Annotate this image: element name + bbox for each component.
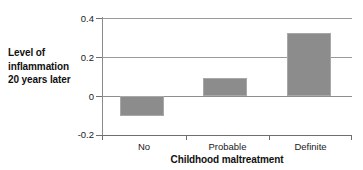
bar-chart-figure: Level of inflammation 20 years later 0.4… [0,0,363,170]
x-tick-mark-1 [186,135,187,140]
x-tick-mark-2 [269,135,270,140]
x-axis-title: Childhood maltreatment [102,154,352,165]
gridline-0.4 [102,18,352,19]
y-axis-tick-labels: 0.4 0.2 0 -0.2 [50,0,94,170]
x-tick-mark-right [351,135,352,140]
x-tick-mark-left [102,135,103,140]
y-tick-label-3: -0.2 [54,129,94,140]
plot-area [102,18,352,135]
x-cat-label-definite: Definite [269,141,352,152]
x-cat-label-no: No [102,141,186,152]
y-tick-label-1: 0.2 [54,52,94,63]
bar-probable[interactable] [203,78,247,96]
y-tick-label-2: 0 [54,91,94,102]
x-axis-category-labels: No Probable Definite [102,141,352,155]
bar-no[interactable] [120,96,164,116]
y-tick-label-0: 0.4 [54,13,94,24]
bar-definite[interactable] [287,33,331,96]
x-axis-line [102,135,352,136]
x-cat-label-probable: Probable [186,141,269,152]
